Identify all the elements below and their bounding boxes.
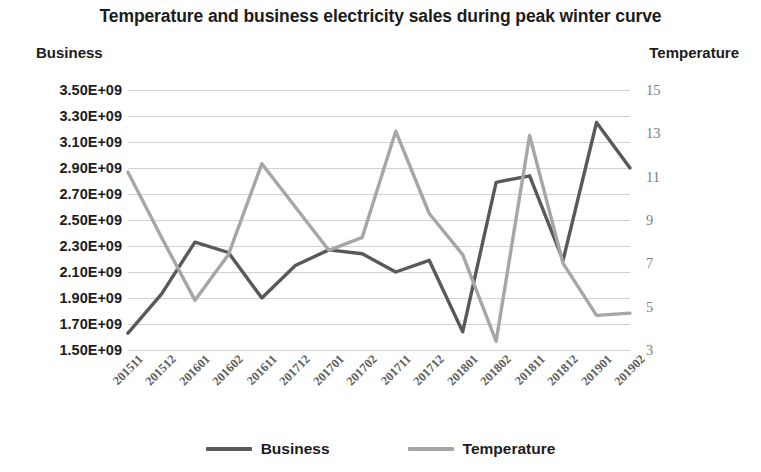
chart-title: Temperature and business electricity sal… (0, 6, 761, 27)
x-axis-tick-label: 201512 (143, 352, 180, 389)
right-axis-tick-label: 5 (646, 299, 653, 314)
left-axis-tick-label: 2.70E+09 (60, 187, 123, 202)
x-axis-tick-label: 201702 (344, 352, 381, 389)
x-axis-tick-label: 201802 (478, 352, 515, 389)
right-axis-tick-label: 9 (646, 213, 653, 228)
gridline (128, 350, 630, 351)
x-axis-tick-label: 201601 (176, 352, 213, 389)
left-axis-ticks: 3.50E+093.30E+093.10E+092.90E+092.70E+09… (10, 90, 122, 350)
plot-area (128, 90, 630, 350)
x-axis-tick-label: 201711 (378, 352, 415, 389)
x-axis-ticks: 2015112015122016012016022016112017122017… (128, 352, 630, 427)
x-axis-tick-label: 201611 (244, 352, 281, 389)
legend-label: Temperature (463, 440, 556, 458)
left-axis-tick-label: 2.10E+09 (60, 265, 123, 280)
x-axis-tick-label: 201812 (545, 352, 582, 389)
x-axis-tick-label: 201701 (310, 352, 347, 389)
right-axis-tick-label: 7 (646, 256, 653, 271)
legend-swatch-icon (206, 447, 252, 451)
x-axis-tick-label: 201902 (611, 352, 648, 389)
left-axis-tick-label: 3.10E+09 (60, 135, 123, 150)
right-axis-tick-label: 11 (646, 169, 660, 184)
x-axis-tick-label: 201712 (277, 352, 314, 389)
chart-container: Temperature and business electricity sal… (0, 0, 761, 472)
x-axis-tick-label: 201602 (210, 352, 247, 389)
x-axis-tick-label: 201901 (578, 352, 615, 389)
left-axis-title: Business (36, 44, 103, 61)
left-axis-tick-label: 3.30E+09 (60, 109, 123, 124)
left-axis-tick-label: 1.90E+09 (60, 291, 123, 306)
series-line-temperature (128, 131, 630, 341)
right-axis-tick-label: 15 (646, 83, 661, 98)
left-axis-tick-label: 2.50E+09 (60, 213, 123, 228)
x-axis-tick-label: 201712 (411, 352, 448, 389)
left-axis-tick-label: 2.90E+09 (60, 161, 123, 176)
left-axis-tick-label: 2.30E+09 (60, 239, 123, 254)
right-axis-ticks: 1513119753 (646, 90, 706, 350)
left-axis-tick-label: 3.50E+09 (60, 83, 123, 98)
right-axis-tick-label: 13 (646, 126, 661, 141)
chart-legend: BusinessTemperature (0, 440, 761, 458)
legend-label: Business (261, 440, 330, 458)
series-lines (128, 90, 630, 350)
left-axis-tick-label: 1.70E+09 (60, 317, 123, 332)
right-axis-title: Temperature (649, 44, 739, 61)
x-axis-tick-label: 201811 (512, 352, 549, 389)
legend-item-temperature[interactable]: Temperature (408, 440, 556, 458)
legend-swatch-icon (408, 447, 454, 451)
left-axis-tick-label: 1.50E+09 (60, 343, 123, 358)
x-axis-tick-label: 201801 (444, 352, 481, 389)
legend-item-business[interactable]: Business (206, 440, 330, 458)
right-axis-tick-label: 3 (646, 343, 653, 358)
